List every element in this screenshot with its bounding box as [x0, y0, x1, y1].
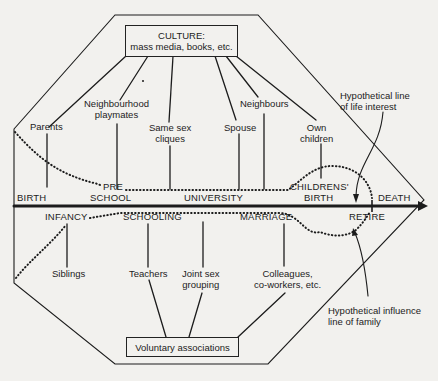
timeline-arrowhead [418, 201, 428, 211]
voluntary-associations-box: Voluntary associations [126, 337, 239, 357]
label-neighbourhood-playmates: Neighbourhood playmates [84, 98, 149, 120]
culture-subtitle: mass media, books, etc. [126, 41, 237, 52]
family-influence-pointer [355, 233, 368, 296]
label-death: DEATH [378, 192, 411, 203]
label-birth: BIRTH [17, 192, 46, 203]
life-course-diagram: CULTURE: mass media, books, etc. Volunta… [0, 0, 438, 381]
label-parents: Parents [30, 121, 63, 132]
label-pre: PRE [103, 181, 123, 192]
label-school: SCHOOL [90, 192, 131, 203]
voluntary-associations-label: Voluntary associations [135, 342, 230, 353]
label-same-sex-cliques: Same sex cliques [149, 122, 191, 144]
label-teachers: Teachers [129, 268, 168, 279]
label-schooling: SCHOOLING [123, 211, 182, 222]
label-infancy: INFANCY [45, 211, 88, 222]
life-interest-pointer [356, 112, 383, 196]
label-childrens: CHILDRENS' [290, 181, 349, 192]
annotation-life-interest: Hypothetical line of life interest [340, 90, 410, 112]
label-colleagues: Colleagues, co-workers, etc. [254, 268, 321, 290]
culture-box: CULTURE: mass media, books, etc. [125, 25, 238, 57]
label-siblings: Siblings [52, 268, 85, 279]
label-childrens-birth: BIRTH [304, 192, 333, 203]
label-spouse: Spouse [224, 122, 256, 133]
label-own-children: Own children [300, 122, 333, 144]
culture-title: CULTURE: [126, 30, 237, 41]
annotation-family-influence: Hypothetical influence line of family [328, 305, 421, 327]
label-joint-sex-grouping: Joint sex grouping [182, 268, 220, 290]
label-neighbours: Neighbours [240, 98, 289, 109]
label-retire: RETIRE [349, 211, 385, 222]
label-university: UNIVERSITY [184, 192, 243, 203]
label-marriage: MARRIAGE [240, 211, 292, 222]
